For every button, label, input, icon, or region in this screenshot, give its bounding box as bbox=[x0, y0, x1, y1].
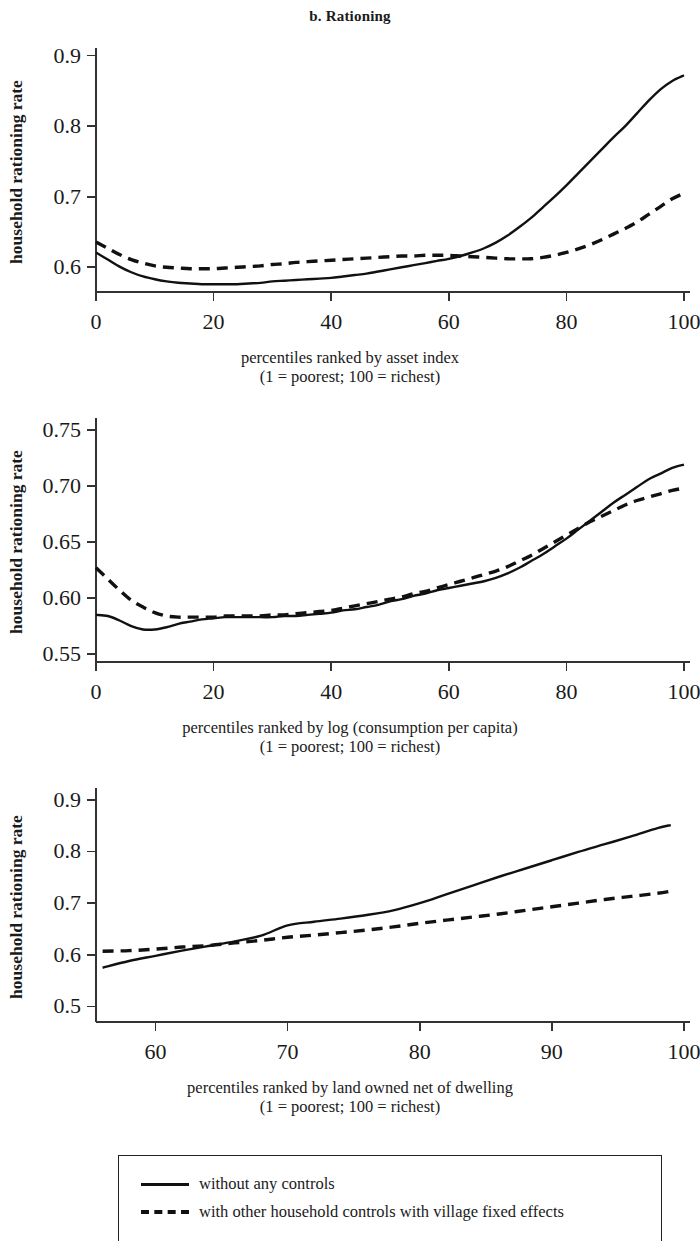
y-tick-label: 0.70 bbox=[43, 473, 82, 498]
panel-log-consumption: 0.550.600.650.700.75020406080100househol… bbox=[0, 400, 700, 710]
legend: without any controls with other househol… bbox=[118, 1155, 662, 1241]
y-tick-label: 0.8 bbox=[54, 113, 82, 138]
y-tick-label: 0.60 bbox=[43, 585, 82, 610]
x-tick-label: 20 bbox=[203, 309, 225, 334]
x-tick-label: 80 bbox=[555, 679, 577, 704]
panel-2-xlabel-line1: percentiles ranked by log (consumption p… bbox=[182, 718, 517, 737]
x-tick-label: 100 bbox=[668, 1039, 700, 1064]
y-tick-label: 0.6 bbox=[54, 254, 82, 279]
panel-3-xlabel-line1: percentiles ranked by land owned net of … bbox=[187, 1078, 513, 1097]
x-tick-label: 0 bbox=[91, 679, 102, 704]
figure-title: b. Rationing bbox=[0, 8, 700, 25]
x-tick-label: 60 bbox=[438, 679, 460, 704]
panel-3-xaxis-label: percentiles ranked by land owned net of … bbox=[0, 1078, 700, 1117]
series-line-with-controls bbox=[96, 488, 684, 617]
y-tick-label: 0.55 bbox=[43, 641, 82, 666]
panel-1-plot: 0.60.70.80.9020406080100household ration… bbox=[0, 30, 700, 340]
y-axis-label: household rationing rate bbox=[6, 815, 26, 999]
y-tick-label: 0.75 bbox=[43, 417, 82, 442]
x-tick-label: 90 bbox=[541, 1039, 563, 1064]
legend-label-without-controls: without any controls bbox=[199, 1174, 335, 1194]
series-line-without-controls bbox=[96, 465, 684, 630]
x-tick-label: 70 bbox=[277, 1039, 299, 1064]
y-tick-label: 0.7 bbox=[54, 184, 82, 209]
y-axis-label: household rationing rate bbox=[6, 80, 26, 264]
legend-solid-line-icon bbox=[141, 1183, 189, 1186]
legend-label-with-controls: with other household controls with villa… bbox=[199, 1202, 564, 1222]
y-axis-label: household rationing rate bbox=[6, 450, 26, 634]
series-line-without-controls bbox=[103, 825, 671, 968]
x-tick-label: 0 bbox=[91, 309, 102, 334]
series-line-without-controls bbox=[96, 75, 684, 284]
x-tick-label: 40 bbox=[320, 309, 342, 334]
x-tick-label: 80 bbox=[555, 309, 577, 334]
panel-land-owned: 0.50.60.70.80.960708090100household rati… bbox=[0, 770, 700, 1070]
x-tick-label: 20 bbox=[203, 679, 225, 704]
panel-2-xlabel-line2: (1 = poorest; 100 = richest) bbox=[0, 737, 700, 756]
y-tick-label: 0.7 bbox=[54, 890, 82, 915]
panel-asset-index: 0.60.70.80.9020406080100household ration… bbox=[0, 30, 700, 340]
panel-1-xaxis-label: percentiles ranked by asset index (1 = p… bbox=[0, 348, 700, 387]
legend-item-with-controls: with other household controls with villa… bbox=[141, 1202, 564, 1222]
series-line-with-controls bbox=[96, 193, 684, 269]
panel-2-xaxis-label: percentiles ranked by log (consumption p… bbox=[0, 718, 700, 757]
panel-1-xlabel-line2: (1 = poorest; 100 = richest) bbox=[0, 367, 700, 386]
series-line-with-controls bbox=[103, 891, 671, 951]
panel-1-xlabel-line1: percentiles ranked by asset index bbox=[241, 348, 459, 367]
x-tick-label: 100 bbox=[668, 309, 700, 334]
x-tick-label: 60 bbox=[144, 1039, 166, 1064]
y-tick-label: 0.5 bbox=[54, 993, 82, 1018]
x-tick-label: 40 bbox=[320, 679, 342, 704]
x-tick-label: 80 bbox=[409, 1039, 431, 1064]
figure-container: b. Rationing 0.60.70.80.9020406080100hou… bbox=[0, 0, 700, 1242]
legend-item-without-controls: without any controls bbox=[141, 1174, 335, 1194]
y-tick-label: 0.9 bbox=[54, 43, 82, 68]
y-tick-label: 0.9 bbox=[54, 787, 82, 812]
y-tick-label: 0.6 bbox=[54, 942, 82, 967]
panel-3-xlabel-line2: (1 = poorest; 100 = richest) bbox=[0, 1097, 700, 1116]
legend-dashed-line-icon bbox=[141, 1210, 189, 1214]
panel-3-plot: 0.50.60.70.80.960708090100household rati… bbox=[0, 770, 700, 1070]
x-tick-label: 100 bbox=[668, 679, 700, 704]
panel-2-plot: 0.550.600.650.700.75020406080100househol… bbox=[0, 400, 700, 710]
y-tick-label: 0.65 bbox=[43, 529, 82, 554]
y-tick-label: 0.8 bbox=[54, 838, 82, 863]
x-tick-label: 60 bbox=[438, 309, 460, 334]
